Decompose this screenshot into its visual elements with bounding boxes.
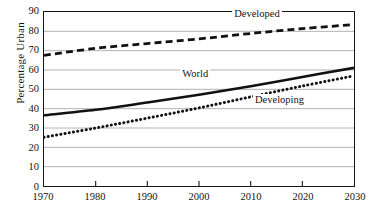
series-annotation-developing: Developing [253,94,306,105]
x-tick-label-1990: 1990 [125,192,169,203]
x-tick-label-2020: 2020 [281,192,325,203]
x-tick-label-2000: 2000 [177,192,221,203]
series-lines [44,25,354,138]
plot-area [43,11,355,187]
x-tick-label-1980: 1980 [73,192,117,203]
x-tick-label-2030: 2030 [333,192,370,203]
urbanization-line-chart: Percentage Urban 0102030405060708090 197… [0,0,370,216]
y-tick-label-20: 20 [17,143,39,154]
x-axis-ticks [96,181,303,186]
y-tick-label-0: 0 [17,182,39,193]
x-tick-label-1970: 1970 [21,192,65,203]
y-axis-title: Percentage Urban [14,0,26,128]
plot-svg [44,12,354,186]
x-tick-label-2010: 2010 [229,192,273,203]
series-annotation-developed: Developed [232,8,281,19]
series-annotation-world: World [180,68,210,79]
gridlines [44,31,354,166]
y-tick-label-10: 10 [17,162,39,173]
